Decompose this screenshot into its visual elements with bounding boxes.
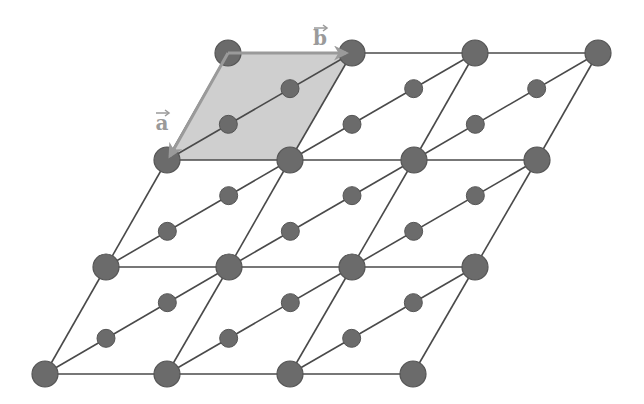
lattice-atom	[216, 254, 242, 280]
lattice-atom	[277, 361, 303, 387]
lattice-edge	[167, 267, 352, 374]
lattice-edge	[45, 267, 229, 374]
interstitial-atom	[343, 115, 361, 133]
interstitial-atom	[466, 187, 484, 205]
lattice-edge	[290, 267, 475, 374]
interstitial-atom	[219, 115, 237, 133]
lattice-edge	[352, 160, 414, 267]
interstitial-atom	[405, 80, 423, 98]
interstitial-atom	[158, 294, 176, 312]
lattice-atom	[524, 147, 550, 173]
interstitial-atom	[528, 80, 546, 98]
interstitial-atom	[281, 294, 299, 312]
lattice-edge	[290, 267, 352, 374]
interstitial-atom	[343, 329, 361, 347]
lattice-edge	[229, 160, 290, 267]
lattice-atom	[400, 361, 426, 387]
lattice-edge	[167, 267, 229, 374]
lattice-atom	[401, 147, 427, 173]
interstitial-atom	[220, 329, 238, 347]
interstitial-atom	[405, 222, 423, 240]
interstitial-atom	[97, 329, 115, 347]
lattice-edge	[106, 160, 290, 267]
lattice-edge	[414, 53, 475, 160]
interstitial-atom	[466, 115, 484, 133]
lattice-edge	[229, 160, 414, 267]
lattice-atom	[339, 254, 365, 280]
lattice-edge	[106, 160, 167, 267]
lattice-edge	[475, 160, 537, 267]
lattice-diagram: ab	[0, 0, 644, 404]
lattice-edge	[537, 53, 598, 160]
lattice-svg: ab	[0, 0, 644, 404]
interstitial-atom	[158, 222, 176, 240]
lattice-edge	[45, 267, 106, 374]
lattice-atom	[462, 254, 488, 280]
interstitial-atom	[220, 187, 238, 205]
lattice-atom	[585, 40, 611, 66]
interstitial-atom	[281, 80, 299, 98]
lattice-edge	[414, 53, 598, 160]
lattice-atom	[154, 147, 180, 173]
interstitial-atom	[404, 294, 422, 312]
lattice-edge	[413, 267, 475, 374]
lattice-atom	[277, 147, 303, 173]
lattice-atom	[32, 361, 58, 387]
lattice-atom	[462, 40, 488, 66]
lattice-edge	[352, 160, 537, 267]
lattice-atom	[93, 254, 119, 280]
interstitial-atom	[343, 187, 361, 205]
interstitial-atom	[281, 222, 299, 240]
lattice-atom	[154, 361, 180, 387]
